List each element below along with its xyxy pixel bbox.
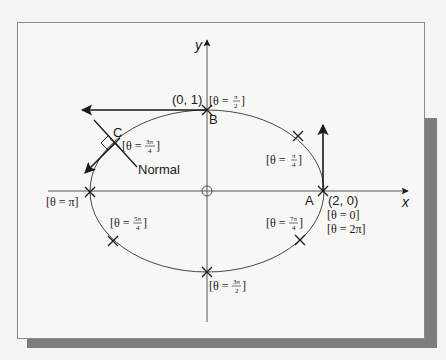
x-axis-label: x <box>401 194 410 210</box>
marker-pi4-suffix: ] <box>298 153 302 167</box>
marker-pi4-den: 4 <box>292 161 296 169</box>
marker-pi4-prefix: [θ = <box>266 153 286 167</box>
point-b-theta-den: 2 <box>234 102 238 110</box>
point-b-name: B <box>209 112 218 127</box>
point-c-theta-prefix: [θ = <box>122 139 142 153</box>
marker-3pi2-den: 2 <box>235 287 239 295</box>
marker-pi-label: [θ = π] <box>46 195 79 209</box>
cross-marker-7pi4-icon <box>295 235 305 245</box>
cross-marker-5pi4-icon <box>108 236 118 246</box>
normal-label: Normal <box>138 162 180 177</box>
point-a-name: A <box>305 193 314 208</box>
point-c-theta-den: 4 <box>148 147 152 155</box>
ellipse-diagram: x y (0, 1) [θ = π 2 ] B C [θ = 3π 4 ] No… <box>0 0 446 360</box>
marker-3pi2-prefix: [θ = <box>209 279 229 293</box>
point-a-theta-2pi: [θ = 2π] <box>327 222 366 236</box>
marker-7pi4-prefix: [θ = <box>266 216 286 230</box>
marker-5pi4-suffix: ] <box>143 216 147 230</box>
marker-7pi4-den: 4 <box>292 224 296 232</box>
point-b-theta-suffix: ] <box>241 94 245 108</box>
marker-7pi4-suffix: ] <box>299 216 303 230</box>
marker-7pi4-num: 7π <box>290 215 298 223</box>
point-a-coord: (2, 0) <box>328 193 358 208</box>
marker-5pi4-num: 5π <box>134 215 142 223</box>
marker-5pi4-den: 4 <box>136 224 140 232</box>
marker-pi4-num: π <box>292 152 296 160</box>
point-c-theta-num: 3π <box>146 138 154 146</box>
y-axis-label: y <box>194 37 203 53</box>
marker-3pi2-suffix: ] <box>242 279 246 293</box>
point-b-theta-num: π <box>234 93 238 101</box>
point-a-theta-0: [θ = 0] <box>327 208 360 222</box>
right-angle-icon <box>101 136 108 150</box>
point-c-theta-suffix: ] <box>156 139 160 153</box>
point-b-theta-prefix: [θ = <box>209 94 229 108</box>
point-c-name: C <box>113 125 122 140</box>
point-b-coord: (0, 1) <box>172 92 202 107</box>
marker-3pi2-num: 3π <box>233 278 241 286</box>
marker-5pi4-prefix: [θ = <box>110 216 130 230</box>
